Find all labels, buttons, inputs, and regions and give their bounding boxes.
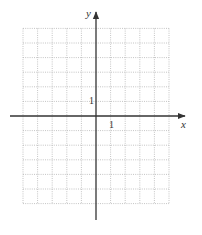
x-unit-tick-label: 1 <box>109 119 114 130</box>
coordinate-plane: y x 1 1 <box>0 0 202 235</box>
y-axis-label: y <box>85 7 91 19</box>
x-axis-label: x <box>180 118 186 130</box>
y-unit-tick-label: 1 <box>89 95 94 106</box>
